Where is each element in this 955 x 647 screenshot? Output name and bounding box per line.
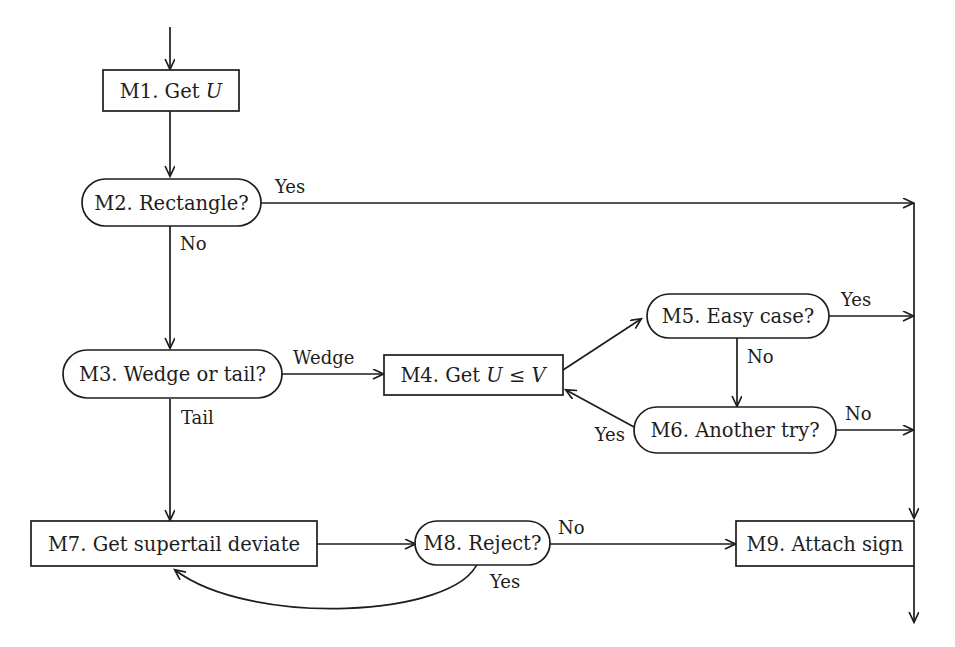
edge-m8-yes-to-m7	[175, 562, 478, 609]
node-m5-label: M5. Easy case?	[662, 304, 814, 327]
flowchart-canvas: M1. Get U M2. Rectangle? M3. Wedge or ta…	[0, 0, 955, 647]
node-m9-label: M9. Attach sign	[747, 532, 904, 555]
edge-label-m2-no: No	[180, 233, 207, 254]
edge-label-m5-no: No	[747, 346, 774, 367]
node-m7[interactable]: M7. Get supertail deviate	[31, 521, 317, 566]
node-m3[interactable]: M3. Wedge or tail?	[63, 350, 282, 398]
node-m9[interactable]: M9. Attach sign	[736, 521, 914, 566]
node-m8-label: M8. Reject?	[424, 531, 542, 554]
edge-label-m3-wedge: Wedge	[293, 347, 354, 368]
node-m6-label: M6. Another try?	[650, 418, 819, 441]
node-m3-label: M3. Wedge or tail?	[79, 363, 266, 386]
node-m2-label: M2. Rectangle?	[94, 191, 249, 214]
edge-m4-to-m5	[563, 319, 641, 370]
node-m6[interactable]: M6. Another try?	[634, 407, 836, 453]
node-m2[interactable]: M2. Rectangle?	[82, 179, 261, 226]
edge-label-m6-yes: Yes	[594, 424, 625, 445]
edge-m6-yes-to-m4	[566, 390, 634, 427]
edge-label-m2-yes: Yes	[274, 176, 305, 197]
node-m1-label: M1. Get U	[120, 80, 223, 103]
edge-label-m6-no: No	[845, 403, 872, 424]
edge-label-m5-yes: Yes	[840, 289, 871, 310]
node-m5[interactable]: M5. Easy case?	[647, 294, 829, 338]
flowchart-svg: M1. Get U M2. Rectangle? M3. Wedge or ta…	[0, 0, 955, 647]
node-m1[interactable]: M1. Get U	[103, 70, 239, 111]
edge-label-m8-yes: Yes	[489, 571, 520, 592]
node-m4-label: M4. Get U ≤ V	[400, 364, 547, 387]
edge-label-m3-tail: Tail	[181, 407, 214, 428]
node-m4[interactable]: M4. Get U ≤ V	[384, 355, 563, 395]
node-m8[interactable]: M8. Reject?	[415, 521, 550, 565]
edge-label-m8-no: No	[558, 517, 585, 538]
node-m7-label: M7. Get supertail deviate	[48, 532, 300, 555]
